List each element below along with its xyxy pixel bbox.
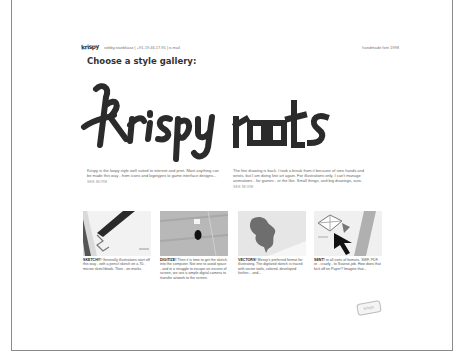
tile-caption: SKETCHY! Generally illustrations start o… xyxy=(83,258,151,271)
digitize-thumbnail[interactable] xyxy=(160,211,228,256)
tile-caption: VECTORS! Messy's preferred format for il… xyxy=(238,258,306,276)
tile-label: DIGITIZE! xyxy=(160,258,176,262)
gallery-description-text: Krispy is the loopy style well suited to… xyxy=(87,168,219,178)
see-more-link[interactable]: SEE MORE xyxy=(87,180,222,185)
gallery-krispy-logo[interactable] xyxy=(80,75,222,165)
gallery-description: The line drawing is back. I took a break… xyxy=(233,168,375,190)
site-logo[interactable]: krispy xyxy=(81,42,99,50)
krispy-lettering-icon xyxy=(80,75,222,165)
see-more-link[interactable]: SEE MORE xyxy=(233,185,375,190)
cursor-envelope-icon xyxy=(314,211,382,256)
contact-line[interactable]: sebby.stanbkasz | +91.19.46.17.95 | e-ma… xyxy=(104,45,180,50)
gallery-description-text: The line drawing is back. I took a break… xyxy=(233,168,364,183)
process-tile-digitize[interactable]: DIGITIZE! Then it is time to get the ske… xyxy=(160,211,228,280)
vectors-thumbnail[interactable] xyxy=(238,211,306,256)
tile-label: SKETCHY! xyxy=(83,258,101,262)
site-header: krispy sebby.stanbkasz | +91.19.46.17.95… xyxy=(81,44,399,54)
tile-label: SENT! xyxy=(314,258,325,262)
camera-lens-icon xyxy=(160,211,228,256)
site-tagline: handmade font 1998 xyxy=(362,45,399,50)
tile-label: VECTORS! xyxy=(238,258,257,262)
roots-lettering-icon xyxy=(232,75,332,165)
gallery-description: Krispy is the loopy style well suited to… xyxy=(87,168,222,185)
gallery-roots-logo[interactable] xyxy=(232,75,332,165)
tile-caption: SENT! to all sorts of formats. SWF, PDF,… xyxy=(314,258,382,271)
pencil-sketch-icon xyxy=(83,211,151,256)
process-tile-vectors[interactable]: VECTORS! Messy's preferred format for il… xyxy=(238,211,306,276)
vector-shape-icon xyxy=(238,211,306,256)
process-tile-sent[interactable]: SENT! to all sorts of formats. SWF, PDF,… xyxy=(314,211,382,271)
process-tile-sketchy[interactable]: SKETCHY! Generally illustrations start o… xyxy=(83,211,151,271)
sent-thumbnail[interactable] xyxy=(314,211,382,256)
sketch-thumbnail[interactable] xyxy=(83,211,151,256)
page-title: Choose a style gallery: xyxy=(87,56,196,66)
tile-caption: DIGITIZE! Then it is time to get the ske… xyxy=(160,258,228,280)
